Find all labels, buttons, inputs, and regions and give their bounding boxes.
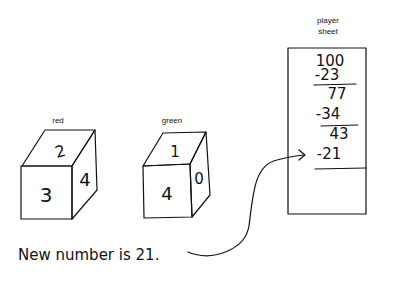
green-die-label: green — [162, 116, 182, 125]
red-die-top-number: 2 — [53, 141, 68, 162]
sheet-underline-3 — [315, 168, 366, 169]
red-die-label: red — [52, 116, 64, 125]
green-die-top-number: 1 — [170, 143, 180, 161]
sheet-line-2: -23 — [315, 66, 340, 84]
green-die: green 4 1 0 — [143, 116, 210, 218]
caption: New number is 21. — [18, 246, 159, 264]
dice-diagram: red 3 2 4 green 4 1 0 player sheet 100 -… — [0, 0, 405, 281]
green-die-right-number: 0 — [194, 170, 204, 188]
sheet-line-3: 77 — [327, 85, 346, 103]
player-sheet-title-line1: player — [317, 16, 339, 25]
red-die: red 3 2 4 — [21, 116, 97, 219]
sheet-line-6: -21 — [317, 145, 342, 163]
green-die-front-number: 4 — [161, 183, 172, 204]
player-sheet-title-line2: sheet — [318, 27, 338, 36]
sheet-line-4: -34 — [316, 105, 341, 123]
player-sheet: player sheet 100 -23 77 -34 43 -21 — [288, 16, 366, 214]
red-die-right-number: 4 — [79, 169, 90, 190]
arrow-path — [188, 155, 304, 256]
sheet-line-5: 43 — [329, 125, 348, 143]
red-die-front-number: 3 — [40, 183, 53, 207]
